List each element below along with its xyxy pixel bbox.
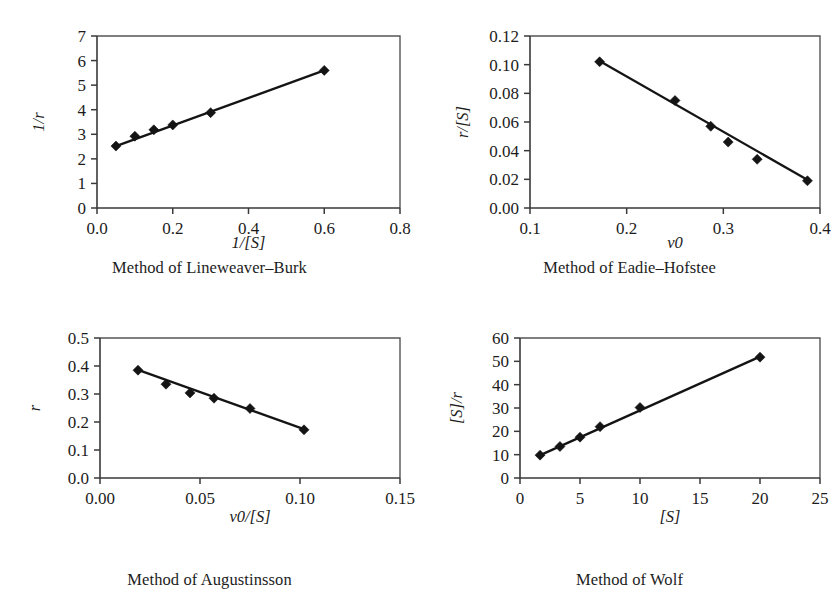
y-tick-label: 2 [78,150,87,169]
x-tick-label: 0.2 [616,219,637,238]
panel-wolf: 01020304050600510152025[S]/r[S] Method o… [420,308,839,616]
y-tick-label: 0.1 [68,441,89,460]
plot-svg-eadie-hofstee: 0.000.020.040.060.080.100.120.10.20.30.4… [420,0,839,250]
y-tick-label: 10 [492,446,509,465]
y-tick-label: 3 [78,125,87,144]
y-tick-label: 60 [492,329,509,348]
y-tick-label: 50 [492,352,509,371]
y-tick-label: 4 [78,101,87,120]
x-tick-label: 0.0 [86,219,107,238]
y-tick-label: 0.02 [489,170,519,189]
y-tick-label: 0.04 [489,142,519,161]
x-tick-label: 0.10 [285,489,315,508]
fit-line [138,370,306,430]
y-axis-title: r [25,404,44,411]
y-tick-label: 0.3 [68,385,89,404]
x-tick-label: 0.05 [185,489,215,508]
panel-augustinsson: 0.00.10.20.30.40.50.000.050.100.15rv0/[S… [0,308,419,616]
data-point-marker [111,141,121,151]
plot-eadie-hofstee: 0.000.020.040.060.080.100.120.10.20.30.4… [420,0,839,250]
y-axis-title: 1/r [29,112,48,132]
caption-augustinsson: Method of Augustinsson [0,570,419,590]
data-point-marker [535,450,545,460]
plot-lineweaver-burk: 012345670.00.20.40.60.81/r1/[S] [0,0,419,250]
y-tick-label: 40 [492,376,509,395]
y-tick-label: 0.08 [489,84,519,103]
x-tick-label: 0 [516,489,525,508]
x-tick-label: 25 [812,489,829,508]
x-tick-label: 0.2 [162,219,183,238]
x-axis-title: v0 [667,233,683,250]
y-tick-label: 0.12 [489,27,519,46]
data-point-marker [575,432,585,442]
data-point-marker [670,96,680,106]
x-axis-title: v0/[S] [229,507,270,526]
y-tick-label: 6 [78,52,87,71]
y-tick-label: 5 [78,76,87,95]
x-tick-label: 15 [692,489,709,508]
y-tick-label: 1 [78,174,87,193]
plot-wolf: 01020304050600510152025[S]/r[S] [420,308,839,558]
y-axis-title: [S]/r [447,391,466,424]
caption-eadie-hofstee: Method of Eadie–Hofstee [420,258,839,278]
data-point-marker [206,108,216,118]
y-axis-title: r/[S] [453,106,472,138]
kinetics-figure: 012345670.00.20.40.60.81/r1/[S] Method o… [0,0,839,616]
plot-svg-wolf: 01020304050600510152025[S]/r[S] [420,308,839,558]
x-tick-label: 0.4 [809,219,831,238]
y-tick-label: 0.4 [68,357,90,376]
y-tick-label: 0.06 [489,113,519,132]
panel-eadie-hofstee: 0.000.020.040.060.080.100.120.10.20.30.4… [420,0,839,308]
x-tick-label: 0.00 [85,489,115,508]
y-tick-label: 0.10 [489,56,519,75]
data-point-marker [752,154,762,164]
y-tick-label: 30 [492,399,509,418]
y-tick-label: 0.0 [68,469,89,488]
x-tick-label: 0.6 [314,219,335,238]
y-tick-label: 20 [492,422,509,441]
fit-line [116,70,324,146]
data-point-marker [555,442,565,452]
caption-wolf: Method of Wolf [420,570,839,590]
y-tick-label: 0 [78,199,87,218]
x-tick-label: 5 [576,489,585,508]
y-tick-label: 0 [501,469,510,488]
fit-line [539,357,760,456]
plot-svg-lineweaver-burk: 012345670.00.20.40.60.81/r1/[S] [0,0,419,250]
data-point-marker [723,137,733,147]
x-tick-label: 0.3 [713,219,734,238]
x-tick-label: 0.1 [519,219,540,238]
x-tick-label: 10 [632,489,649,508]
x-tick-label: 20 [752,489,769,508]
fit-line [600,61,811,181]
panel-lineweaver-burk: 012345670.00.20.40.60.81/r1/[S] Method o… [0,0,419,308]
x-tick-label: 0.15 [385,489,415,508]
data-point-marker [755,352,765,362]
caption-lineweaver-burk: Method of Lineweaver–Burk [0,258,419,278]
y-tick-label: 0.5 [68,329,89,348]
data-point-marker [133,365,143,375]
y-tick-label: 0.2 [68,413,89,432]
y-tick-label: 7 [78,27,87,46]
x-axis-title: [S] [659,507,680,526]
plot-augustinsson: 0.00.10.20.30.40.50.000.050.100.15rv0/[S… [0,308,419,558]
x-axis-title: 1/[S] [232,233,266,250]
plot-svg-augustinsson: 0.00.10.20.30.40.50.000.050.100.15rv0/[S… [0,308,419,558]
x-tick-label: 0.8 [389,219,410,238]
data-point-marker [319,65,329,75]
data-point-marker [595,57,605,67]
y-tick-label: 0.00 [489,199,519,218]
data-point-marker [299,425,309,435]
data-point-marker [168,120,178,130]
